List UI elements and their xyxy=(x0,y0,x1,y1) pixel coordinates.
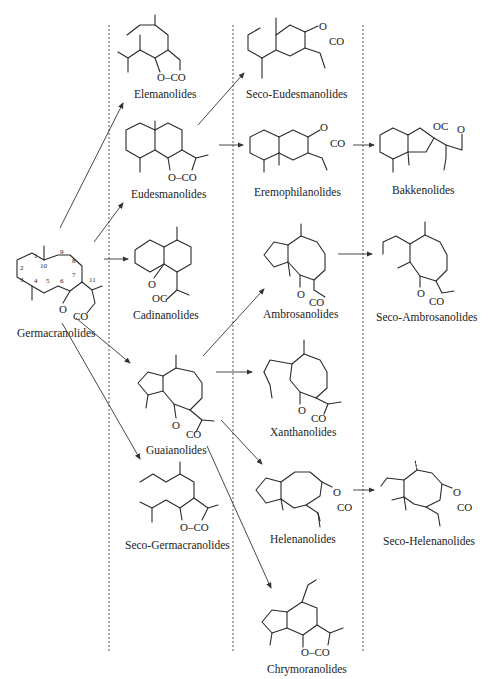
svg-text:OC: OC xyxy=(433,120,448,132)
arrow-germacranolides-to-eudesmanolides xyxy=(94,203,123,242)
svg-text:1: 1 xyxy=(34,252,38,260)
svg-text:O: O xyxy=(298,404,306,416)
sesquiterpene-lactone-scheme: 1 2 3 4 5 6 7 8 9 10 11 O CO Germacranol… xyxy=(0,0,488,679)
structure-seco-eudesmanolides: O CO Seco-Eudesmanolides xyxy=(246,18,348,100)
structure-seco-helenanolides: O CO Seco-Helenanolides xyxy=(381,460,475,547)
label-ambrosanolides: Ambrosanolides xyxy=(263,308,339,320)
structure-helenanolides: O CO Helenanolides xyxy=(256,472,352,545)
svg-text:O: O xyxy=(320,121,328,133)
label-seco-eudesmanolides: Seco-Eudesmanolides xyxy=(246,88,348,100)
svg-text:4: 4 xyxy=(34,277,38,285)
svg-text:CO: CO xyxy=(73,310,88,322)
structure-eudesmanolides: O–CO Eudesmanolides xyxy=(126,121,208,200)
label-guaianolides: Guaianolides xyxy=(146,444,207,456)
arrow-guaianolides-to-helenanolides xyxy=(221,420,262,464)
svg-text:O: O xyxy=(59,303,67,315)
label-chrymoranolides: Chrymoranolides xyxy=(267,663,347,676)
label-helenanolides: Helenanolides xyxy=(270,533,336,545)
structure-guaianolides: O CO Guaianolides xyxy=(138,355,214,456)
label-xanthanolides: Xanthanolides xyxy=(270,426,337,438)
structure-chrymoranolides: O–CO Chrymoranolides xyxy=(262,580,347,676)
svg-text:3: 3 xyxy=(20,276,24,284)
structure-eremophilanolides: O CO Eremophilanolides xyxy=(250,121,345,199)
svg-text:O: O xyxy=(172,419,180,431)
label-seco-helenanolides: Seco-Helenanolides xyxy=(383,535,475,547)
label-seco-germacranolides: Seco-Germacranolides xyxy=(125,539,230,551)
svg-text:7: 7 xyxy=(72,271,76,279)
svg-text:OC: OC xyxy=(152,292,167,304)
svg-text:5: 5 xyxy=(46,277,50,285)
structure-elemanolides: O–CO Elemanolides xyxy=(118,15,197,100)
label-cadinanolides: Cadinanolides xyxy=(133,309,199,321)
svg-text:O–CO: O–CO xyxy=(180,521,209,533)
svg-text:CO: CO xyxy=(186,428,201,440)
svg-text:O–CO: O–CO xyxy=(301,646,330,658)
svg-text:2: 2 xyxy=(20,264,24,272)
svg-text:11: 11 xyxy=(89,276,96,284)
svg-text:O: O xyxy=(319,20,327,32)
svg-text:CO: CO xyxy=(309,296,324,308)
svg-text:CO: CO xyxy=(337,501,352,513)
svg-text:O: O xyxy=(297,288,305,300)
svg-text:O: O xyxy=(417,287,425,299)
svg-text:O: O xyxy=(148,278,156,290)
label-eudesmanolides: Eudesmanolides xyxy=(131,188,207,200)
structure-xanthanolides: O CO Xanthanolides xyxy=(264,340,341,438)
svg-text:CO: CO xyxy=(457,501,472,513)
svg-text:CO: CO xyxy=(429,295,444,307)
svg-text:8: 8 xyxy=(72,257,76,265)
svg-text:O: O xyxy=(457,123,465,135)
structure-germacranolides: 1 2 3 4 5 6 7 8 9 10 11 O CO Germacranol… xyxy=(17,246,102,339)
structure-seco-germacranolides: O–CO Seco-Germacranolides xyxy=(125,462,230,551)
arrow-germacranolides-to-elemanolides xyxy=(60,103,123,228)
svg-text:10: 10 xyxy=(40,262,48,270)
svg-text:CO: CO xyxy=(311,412,326,424)
label-elemanolides: Elemanolides xyxy=(134,88,197,100)
label-eremophilanolides: Eremophilanolides xyxy=(254,186,341,199)
label-bakkenolides: Bakkenolides xyxy=(392,184,455,196)
arrow-germacranolides-to-guaianolides xyxy=(76,318,130,363)
svg-text:CO: CO xyxy=(330,137,345,149)
svg-text:O: O xyxy=(453,486,461,498)
structure-cadinanolides: O OC Cadinanolides xyxy=(133,227,199,321)
svg-text:O–CO: O–CO xyxy=(157,71,186,83)
structure-seco-ambrosanolides: O CO Seco-Ambrosanolides xyxy=(376,222,478,323)
label-seco-ambrosanolides: Seco-Ambrosanolides xyxy=(376,311,478,323)
structure-bakkenolides: OC O Bakkenolides xyxy=(380,120,465,196)
svg-text:9: 9 xyxy=(60,248,64,256)
svg-text:O: O xyxy=(333,486,341,498)
svg-text:O–CO: O–CO xyxy=(168,171,197,183)
arrow-eudesmanolides-to-seco-eudesmanolides xyxy=(198,73,244,125)
svg-text:6: 6 xyxy=(60,277,64,285)
label-germacranolides: Germacranolides xyxy=(17,327,96,339)
arrow-guaianolides-to-chrymoranolides xyxy=(207,446,271,588)
arrow-germacranolides-to-seco-germacranolides xyxy=(62,323,140,459)
structure-ambrosanolides: O CO Ambrosanolides xyxy=(263,224,339,320)
svg-text:CO: CO xyxy=(329,35,344,47)
